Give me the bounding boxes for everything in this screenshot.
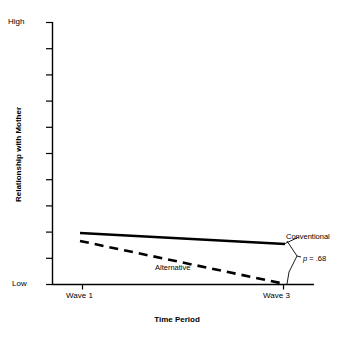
p-value-symbol: p [303, 254, 307, 263]
p-value-number: .68 [316, 254, 326, 263]
x-axis-ticks [83, 285, 284, 290]
y-axis-title: Relationship with Mother [14, 65, 23, 245]
chart-plot-area [0, 0, 354, 339]
series-label-conventional: Conventional [286, 233, 330, 241]
series-line-conventional [80, 233, 285, 244]
x-axis-tick-label-wave-1: Wave 1 [66, 292, 93, 300]
x-axis-title: Time Period [0, 316, 354, 324]
p-value-equals: = [309, 254, 313, 263]
y-axis-title-container: Relationship with Mother [0, 0, 22, 339]
p-value-annotation: p = .68 [303, 255, 326, 263]
x-axis-tick-label-wave-3: Wave 3 [263, 292, 290, 300]
y-axis-ticks [46, 23, 53, 285]
pvalue-bracket-stem [297, 256, 301, 257]
pvalue-bracket [287, 241, 297, 284]
series-label-alternative: Alternative [155, 264, 190, 272]
chart-figure: High Low Wave 1 Wave 3 Relationship with… [0, 0, 354, 339]
